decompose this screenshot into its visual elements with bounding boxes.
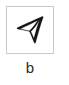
navigation-arrow-icon [13,13,47,47]
figure-panel: b [0,0,69,85]
glyph-bounding-box [6,6,54,54]
panel-label: b [0,58,60,78]
